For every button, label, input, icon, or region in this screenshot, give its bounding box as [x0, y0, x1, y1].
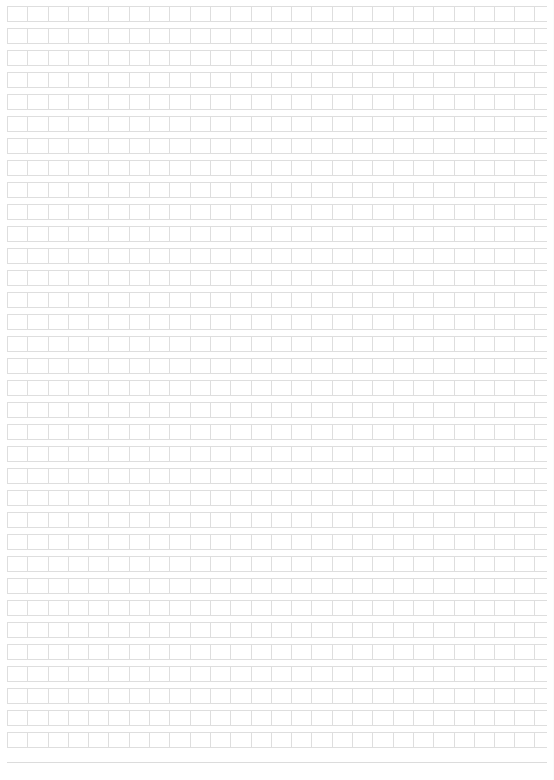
grid-cell[interactable]	[210, 51, 230, 65]
grid-cell[interactable]	[393, 469, 413, 483]
grid-cell[interactable]	[271, 667, 291, 681]
grid-cell[interactable]	[210, 689, 230, 703]
grid-cell[interactable]	[108, 139, 128, 153]
grid-cell[interactable]	[332, 7, 352, 21]
grid-cell[interactable]	[311, 7, 331, 21]
grid-cell[interactable]	[230, 95, 250, 109]
grid-cell[interactable]	[129, 161, 149, 175]
grid-cell[interactable]	[27, 733, 47, 747]
grid-cell[interactable]	[454, 425, 474, 439]
grid-cell[interactable]	[474, 73, 494, 87]
grid-cell[interactable]	[311, 249, 331, 263]
grid-cell[interactable]	[210, 183, 230, 197]
grid-cell[interactable]	[514, 95, 534, 109]
grid-cell[interactable]	[393, 161, 413, 175]
grid-cell[interactable]	[7, 29, 27, 43]
grid-cell[interactable]	[88, 7, 108, 21]
grid-cell[interactable]	[210, 425, 230, 439]
grid-cell[interactable]	[332, 425, 352, 439]
grid-cell[interactable]	[372, 667, 392, 681]
grid-cell[interactable]	[27, 183, 47, 197]
grid-cell[interactable]	[48, 7, 68, 21]
grid-cell[interactable]	[332, 161, 352, 175]
grid-cell[interactable]	[129, 139, 149, 153]
grid-cell[interactable]	[230, 667, 250, 681]
grid-cell[interactable]	[372, 73, 392, 87]
grid-cell[interactable]	[88, 689, 108, 703]
grid-cell[interactable]	[291, 117, 311, 131]
grid-cell[interactable]	[149, 689, 169, 703]
grid-cell[interactable]	[311, 645, 331, 659]
grid-cell[interactable]	[129, 491, 149, 505]
grid-cell[interactable]	[413, 205, 433, 219]
grid-cell[interactable]	[230, 183, 250, 197]
grid-cell[interactable]	[149, 315, 169, 329]
grid-cell[interactable]	[474, 535, 494, 549]
grid-cell[interactable]	[149, 447, 169, 461]
grid-cell[interactable]	[454, 183, 474, 197]
grid-cell[interactable]	[372, 469, 392, 483]
grid-cell[interactable]	[108, 95, 128, 109]
grid-cell[interactable]	[210, 227, 230, 241]
grid-cell[interactable]	[251, 7, 271, 21]
grid-cell[interactable]	[454, 513, 474, 527]
grid-row[interactable]	[7, 94, 547, 110]
grid-cell[interactable]	[433, 667, 453, 681]
grid-cell[interactable]	[352, 7, 372, 21]
grid-cell[interactable]	[88, 623, 108, 637]
grid-cell[interactable]	[108, 161, 128, 175]
grid-cell[interactable]	[454, 557, 474, 571]
grid-cell[interactable]	[352, 469, 372, 483]
grid-cell[interactable]	[352, 403, 372, 417]
grid-cell[interactable]	[27, 557, 47, 571]
grid-cell[interactable]	[474, 249, 494, 263]
grid-cell[interactable]	[291, 513, 311, 527]
grid-cell[interactable]	[454, 293, 474, 307]
grid-cell[interactable]	[372, 491, 392, 505]
grid-cell[interactable]	[474, 117, 494, 131]
grid-cell[interactable]	[190, 293, 210, 307]
grid-cell[interactable]	[7, 139, 27, 153]
grid-cell[interactable]	[7, 381, 27, 395]
grid-cell[interactable]	[68, 535, 88, 549]
grid-cell[interactable]	[413, 689, 433, 703]
grid-cell[interactable]	[393, 293, 413, 307]
grid-cell[interactable]	[352, 95, 372, 109]
grid-cell[interactable]	[68, 73, 88, 87]
grid-cell[interactable]	[454, 73, 474, 87]
grid-cell[interactable]	[352, 315, 372, 329]
grid-row[interactable]	[7, 534, 547, 550]
grid-cell[interactable]	[88, 579, 108, 593]
grid-cell[interactable]	[190, 689, 210, 703]
grid-cell[interactable]	[169, 711, 189, 725]
grid-cell[interactable]	[454, 733, 474, 747]
grid-cell[interactable]	[413, 403, 433, 417]
grid-cell[interactable]	[68, 249, 88, 263]
grid-cell[interactable]	[68, 579, 88, 593]
grid-cell[interactable]	[169, 689, 189, 703]
grid-cell[interactable]	[169, 491, 189, 505]
grid-cell[interactable]	[210, 513, 230, 527]
grid-cell[interactable]	[514, 689, 534, 703]
grid-cell[interactable]	[169, 161, 189, 175]
grid-row[interactable]	[7, 204, 547, 220]
grid-cell[interactable]	[494, 205, 514, 219]
grid-cell[interactable]	[291, 733, 311, 747]
grid-cell[interactable]	[108, 205, 128, 219]
grid-cell[interactable]	[48, 733, 68, 747]
grid-cell[interactable]	[108, 381, 128, 395]
grid-cell[interactable]	[332, 315, 352, 329]
grid-cell[interactable]	[352, 535, 372, 549]
grid-cell[interactable]	[311, 667, 331, 681]
grid-cell[interactable]	[332, 557, 352, 571]
grid-cell[interactable]	[108, 51, 128, 65]
grid-cell[interactable]	[251, 711, 271, 725]
grid-cell[interactable]	[514, 161, 534, 175]
grid-cell[interactable]	[251, 95, 271, 109]
grid-cell[interactable]	[7, 667, 27, 681]
grid-cell[interactable]	[169, 469, 189, 483]
grid-cell[interactable]	[210, 359, 230, 373]
grid-cell[interactable]	[129, 315, 149, 329]
grid-cell[interactable]	[27, 579, 47, 593]
grid-cell[interactable]	[169, 403, 189, 417]
